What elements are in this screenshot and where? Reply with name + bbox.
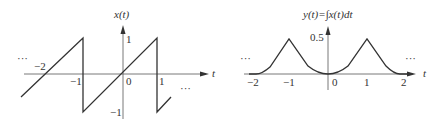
tick-x-1: 1 [364,76,370,88]
ellipsis-right: ··· [180,82,191,94]
tick-x-neg1: −1 [70,75,82,87]
diagram-canvas: x(t) t −2 −1 0 1 1 −1 ··· ··· y(t)=∫x(t)… [0,0,439,126]
left-x-axis-arrow-icon [200,72,209,77]
tick-y-0.5: 0.5 [310,31,324,43]
ellipsis-left: ··· [240,52,251,64]
tick-x-neg1: −1 [283,76,295,88]
tick-y-1: 1 [126,33,132,45]
sawtooth-curve [21,38,171,112]
right-y-axis-arrow-icon [326,26,331,35]
tick-x-0: 0 [332,76,338,88]
integral-curve [249,39,409,74]
right-x-label: t [423,67,427,79]
tick-y-neg1: −1 [110,106,122,118]
right-plot: y(t)=∫x(t)dt t 0.5 −2 −1 0 1 2 ··· ··· [240,8,427,90]
tick-x-0: 0 [126,75,132,87]
right-y-label: y(t)=∫x(t)dt [302,8,353,21]
tick-x-neg2: −2 [247,76,259,88]
left-y-label: x(t) [113,8,130,21]
tick-x-1: 1 [159,75,165,87]
left-x-label: t [212,67,216,79]
ellipsis-left: ··· [17,52,28,64]
tick-x-neg2: −2 [34,60,46,72]
left-y-axis-arrow-icon [121,25,126,34]
left-plot: x(t) t −2 −1 0 1 1 −1 ··· ··· [17,8,216,119]
tick-x-2: 2 [401,76,407,88]
ellipsis-right: ··· [405,52,416,64]
